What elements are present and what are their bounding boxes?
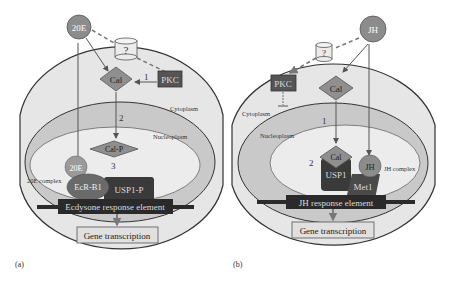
complex-label: 20E complex [27, 177, 62, 184]
ecr-b1-label: EcR-B1 [74, 182, 101, 192]
diagram-canvas: ? 20E Cal PKC 1 2 Cytoplasm Nucleoplasm … [0, 0, 452, 285]
nucleoplasm-label: Nucleoplasm [153, 133, 187, 140]
receptor-b: ? [316, 43, 332, 62]
met1-label: Met1 [354, 182, 373, 192]
panel-b: ? JH PKC Cal Cytoplasm Nucleoplasm 1 2 U… [232, 16, 435, 269]
gene-transcription-label: Gene transcription [300, 226, 367, 236]
panel-a: ? 20E Cal PKC 1 2 Cytoplasm Nucleoplasm … [15, 15, 223, 269]
complex-label: JH complex [384, 165, 416, 172]
receptor-label: ? [322, 48, 326, 58]
response-element-label: Ecdysone response element [65, 202, 165, 212]
step-1-label: 1 [322, 116, 327, 126]
step-3-label: 3 [111, 161, 116, 171]
pkc-label: PKC [161, 75, 179, 85]
step-1-label: 1 [144, 72, 149, 82]
receptor-a: ? [115, 38, 137, 60]
response-element-label: JH response element [299, 198, 374, 208]
step-2-label: 2 [119, 113, 124, 123]
gene-transcription-label: Gene transcription [84, 231, 151, 241]
receptor-label: ? [124, 44, 129, 56]
usp1-label: USP1 [325, 170, 346, 180]
usp1-p-label: USP1-P [114, 185, 143, 195]
hormone-label: JH [368, 25, 379, 35]
hormone-label: 20E [72, 23, 87, 33]
cytoplasm-label: Cytoplasm [170, 105, 198, 112]
step-2-label: 2 [309, 158, 314, 168]
calponin-label: Cal [330, 84, 343, 94]
panel-a-label: (a) [15, 260, 24, 269]
calponin-label: Cal [110, 75, 123, 85]
complex-hormone-label: JH [365, 162, 374, 172]
complex-hormone-label: 20E [70, 164, 83, 173]
complex-cal-label: Cal [330, 153, 342, 162]
cal-p-label: Cal-P [105, 145, 124, 154]
cytoplasm-label: Cytoplasm [242, 110, 270, 117]
panel-b-label: (b) [233, 260, 243, 269]
nucleoplasm-label: Nucleoplasm [260, 132, 294, 139]
pkc-label: PKC [274, 79, 292, 89]
